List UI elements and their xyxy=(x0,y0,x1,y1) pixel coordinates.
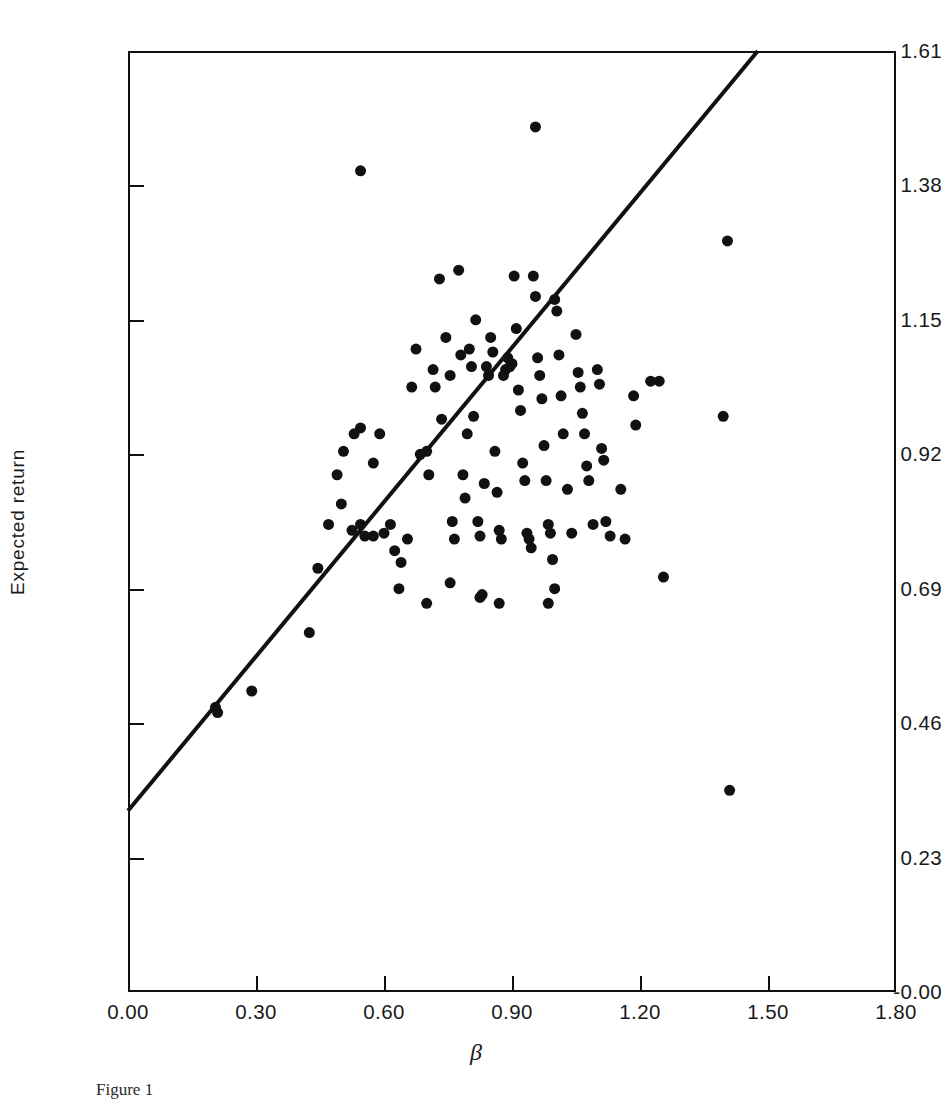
x-axis-tick-label: 0.60 xyxy=(324,1002,444,1023)
plot-frame xyxy=(128,51,896,992)
y-axis-tick-label: 0.46 xyxy=(836,713,952,734)
figure-caption: Figure 1 xyxy=(96,1080,153,1100)
x-axis-tick xyxy=(768,976,770,992)
y-axis-tick-label: 1.61 xyxy=(836,41,952,62)
y-axis-tick xyxy=(128,589,144,591)
y-axis-tick-label: 1.15 xyxy=(836,310,952,331)
y-axis-tick-label: 0.69 xyxy=(836,578,952,599)
y-axis-tick xyxy=(128,858,144,860)
y-axis-label: Expected return xyxy=(7,449,29,595)
y-axis-tick xyxy=(128,454,144,456)
x-axis-tick-label: 0.00 xyxy=(68,1002,188,1023)
y-axis-tick xyxy=(128,320,144,322)
x-axis-tick-label: 0.30 xyxy=(196,1002,316,1023)
y-axis-tick-label: 0.92 xyxy=(836,444,952,465)
x-axis-tick xyxy=(384,976,386,992)
y-axis-tick xyxy=(128,723,144,725)
y-axis-tick xyxy=(128,185,144,187)
x-axis-label: β xyxy=(0,1039,952,1066)
x-axis-tick-label: 0.90 xyxy=(452,1002,572,1023)
x-axis-tick-label: 1.20 xyxy=(580,1002,700,1023)
x-axis-tick xyxy=(512,976,514,992)
y-axis-tick-label: 1.38 xyxy=(836,175,952,196)
x-axis-tick-label: 1.50 xyxy=(708,1002,828,1023)
x-axis-tick xyxy=(256,976,258,992)
y-axis-tick-label: 0.23 xyxy=(836,847,952,868)
x-axis-tick-label: 1.80 xyxy=(836,1002,952,1023)
x-axis-tick xyxy=(640,976,642,992)
